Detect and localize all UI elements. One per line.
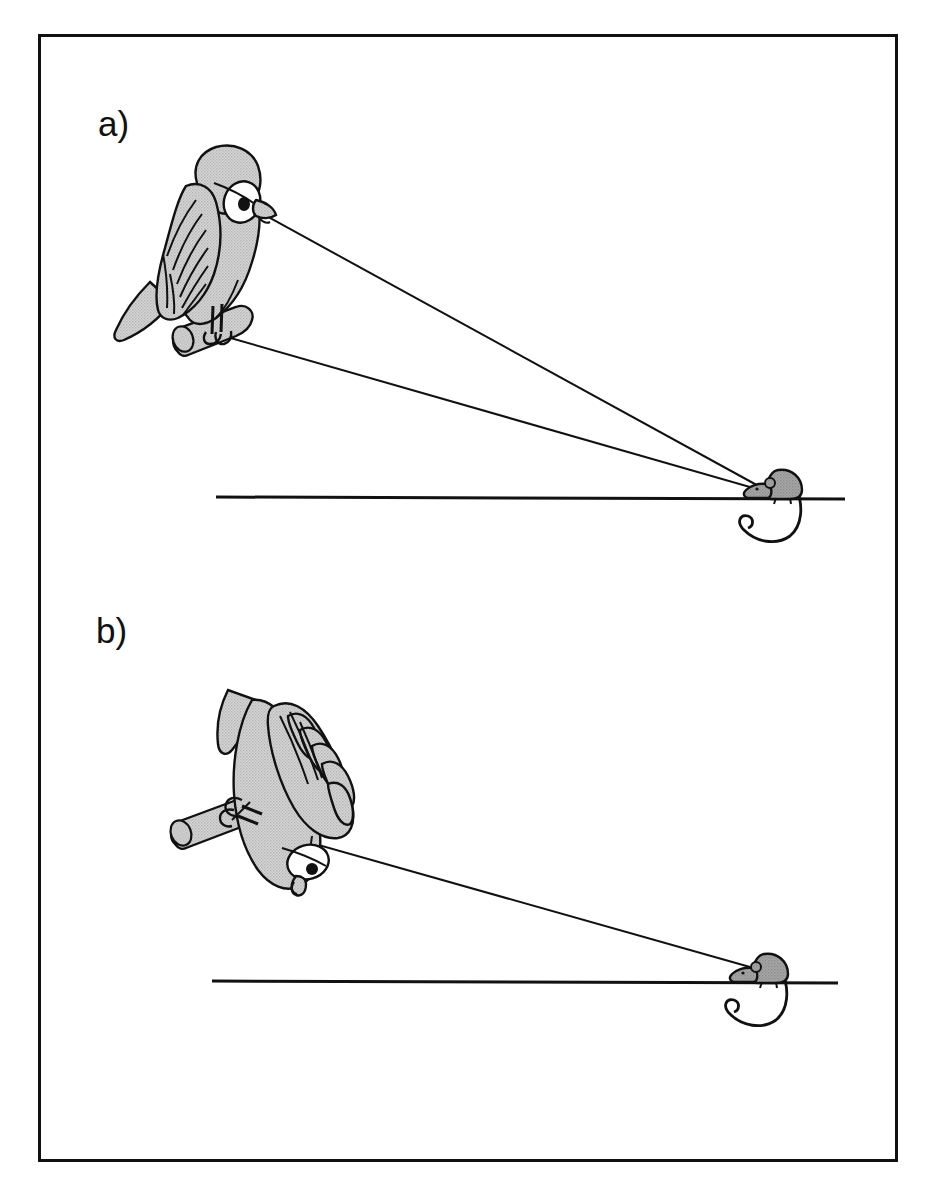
figure-border [38, 34, 898, 1162]
panel-label-b: b) [96, 613, 127, 648]
panel-label-a: a) [98, 106, 129, 141]
figure-canvas: a) b) [0, 0, 934, 1204]
